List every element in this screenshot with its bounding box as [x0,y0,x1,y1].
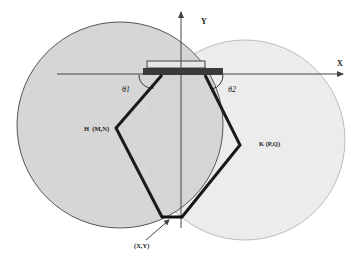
y-axis-label: Y [201,17,207,26]
joint-h-label: H (M,N) [84,125,109,133]
end-effector-label: (X,Y) [134,242,149,250]
base-platform [143,68,223,75]
theta2-label: θ2 [228,85,236,94]
theta1-label: θ1 [122,85,130,94]
joint-k-label: K (P,Q) [259,140,280,148]
mechanism-diagram: Y X θ1 θ2 H (M,N) K (P,Q) (X,Y) [0,0,359,262]
base-top-plate [147,61,205,68]
x-axis-label: X [337,59,343,68]
